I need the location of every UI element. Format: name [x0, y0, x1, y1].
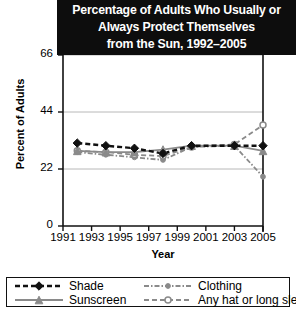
data-point-marker: [259, 141, 267, 149]
legend-label-shade: Shade: [69, 279, 104, 293]
legend-item-shade[interactable]: Shade: [13, 278, 104, 293]
chart-title-line-1: Percentage of Adults Who Usually or: [61, 2, 292, 19]
legend-label-clothing: Clothing: [198, 279, 242, 293]
legend-item-hat[interactable]: Any hat or long sleeves: [142, 292, 296, 307]
chart-title-line-3: from the Sun, 1992–2005: [61, 36, 292, 53]
legend-swatch-shade: [13, 278, 65, 293]
data-point-marker: [260, 122, 266, 128]
data-point-marker: [102, 141, 110, 149]
legend-item-sunscreen[interactable]: Sunscreen: [13, 292, 126, 307]
x-tick-label: 2005: [243, 231, 283, 243]
chart-figure: Percentage of Adults Who Usually or Alwa…: [0, 0, 296, 309]
legend-swatch-clothing: [142, 278, 194, 293]
legend-label-hat: Any hat or long sleeves: [198, 293, 296, 307]
legend-row-2: Sunscreen Any hat or long sleeves: [7, 292, 289, 307]
legend-row-1: Shade Clothing: [7, 278, 289, 293]
legend-item-clothing[interactable]: Clothing: [142, 278, 242, 293]
y-tick-label: 66: [23, 47, 53, 59]
chart-title-line-2: Always Protect Themselves: [61, 19, 292, 36]
data-point-marker: [261, 174, 266, 179]
data-point-marker: [166, 284, 171, 289]
y-tick-label: 0: [23, 218, 53, 230]
y-tick-label: 44: [23, 104, 53, 116]
data-point-marker: [165, 297, 171, 303]
chart-title-banner: Percentage of Adults Who Usually or Alwa…: [57, 0, 296, 55]
x-axis-title: Year: [63, 248, 263, 260]
legend-swatch-hat: [142, 292, 194, 307]
data-point-marker: [73, 139, 81, 147]
y-tick-label: 22: [23, 161, 53, 173]
chart-legend: Shade Clothing Sunscreen Any hat or long…: [6, 277, 290, 307]
legend-swatch-sunscreen: [13, 292, 65, 307]
legend-label-sunscreen: Sunscreen: [69, 293, 126, 307]
data-point-marker: [35, 282, 43, 290]
